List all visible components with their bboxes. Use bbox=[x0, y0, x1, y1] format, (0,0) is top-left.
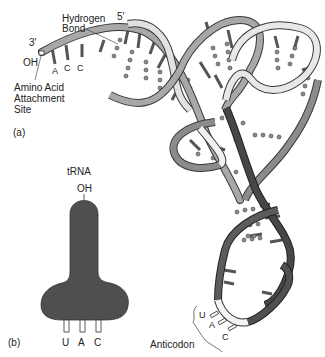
peg-base-u: U bbox=[62, 337, 69, 348]
five-prime-label: 5′ bbox=[117, 11, 125, 22]
anticodon-pegs bbox=[64, 320, 101, 332]
base-c2: C bbox=[77, 63, 84, 73]
peg-base-a: A bbox=[78, 337, 85, 348]
panel-b-label: (b) bbox=[8, 337, 20, 348]
panel-b-schematic: tRNA OH U A C (b) bbox=[8, 166, 128, 348]
oh-label-b: OH bbox=[77, 183, 92, 194]
anticodon-label: Anticodon bbox=[150, 339, 194, 350]
three-prime-label: 3′ bbox=[29, 37, 37, 48]
trna-body-shape bbox=[41, 201, 128, 321]
trna-title: tRNA bbox=[67, 166, 91, 177]
anticodon-base-u: U bbox=[199, 310, 206, 320]
oh-label-a: OH bbox=[23, 57, 38, 68]
base-c1: C bbox=[64, 63, 71, 73]
trna-diagram: Hydrogen Bond 5′ 3′ OH A C C Amino Acid … bbox=[0, 0, 325, 357]
hydrogen-bond-label-2: Bond bbox=[62, 23, 85, 34]
amino-site-label-2: Attachment bbox=[14, 93, 65, 104]
panel-a-label: (a) bbox=[13, 127, 25, 138]
anticodon-base-a: A bbox=[209, 320, 215, 330]
peg-base-c: C bbox=[94, 337, 101, 348]
anticodon-base-c: C bbox=[222, 332, 229, 342]
amino-site-label-1: Amino Acid bbox=[14, 82, 64, 93]
base-a: A bbox=[52, 66, 58, 76]
amino-site-label-3: Site bbox=[14, 104, 32, 115]
